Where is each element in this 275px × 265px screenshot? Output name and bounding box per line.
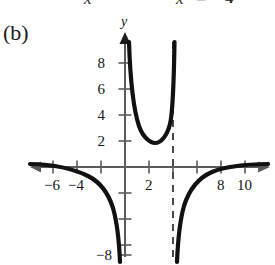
cut-text-fragment-four: 4 (225, 0, 234, 6)
axes-group (30, 32, 270, 257)
y-axis-label: y (119, 14, 128, 29)
y-tick-label-8: 8 (98, 55, 106, 71)
x-tick-label-2: 2 (145, 177, 153, 193)
curve-branch-middle-u (129, 42, 175, 143)
cut-text-fragment-equals: = (196, 0, 206, 7)
y-tick-label-6: 6 (98, 81, 106, 97)
cut-text-fragment-x-right: x (176, 0, 184, 7)
y-tick-label-2: 2 (98, 133, 106, 149)
x-tick-label-8: 8 (217, 177, 225, 193)
graph-plot-area: −6 −4 2 8 10 8 6 4 2 −8 y (0, 12, 275, 265)
y-tick-label--8: −8 (96, 247, 112, 263)
figure-container: x x = 4 (b) (0, 0, 275, 265)
x-tick-label-10: 10 (237, 177, 252, 193)
y-tick-label-4: 4 (98, 107, 106, 123)
cut-text-fragment-x-left: x (84, 0, 92, 7)
graph-svg: −6 −4 2 8 10 8 6 4 2 −8 y (0, 12, 275, 265)
x-tick-label--4: −4 (68, 177, 84, 193)
x-tick-label--6: −6 (44, 177, 60, 193)
function-curves (30, 42, 268, 262)
